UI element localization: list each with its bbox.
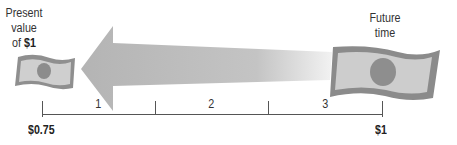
small-dollar-bill-icon (15, 55, 75, 89)
future-caption-line2: time (364, 26, 407, 41)
future-time-caption: Future time (364, 11, 407, 41)
period-label-3: 3 (322, 97, 328, 111)
present-caption-line3: of $1 (3, 36, 44, 51)
present-caption-prefix: of (12, 36, 24, 50)
present-value-amount: $0.75 (28, 123, 55, 137)
period-label-2: 2 (208, 97, 214, 111)
large-dollar-bill-icon (330, 46, 440, 100)
future-value-amount: $1 (375, 123, 387, 137)
future-caption-line1: Future (364, 11, 407, 26)
present-caption-line1: Present (3, 6, 44, 21)
left-arrow-icon (81, 26, 332, 111)
period-label-1: 1 (95, 97, 101, 111)
present-caption-line2: value (3, 21, 44, 36)
present-value-caption: Present value of $1 (3, 6, 44, 51)
present-caption-amount: $1 (24, 36, 36, 50)
